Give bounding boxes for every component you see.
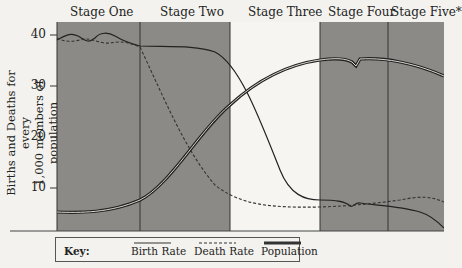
legend-death-rate: Death Rate [194,245,254,257]
stage-four-five-shading [320,22,444,231]
legend-population: Population [261,245,318,257]
legend-birth-rate: Birth Rate [131,245,186,257]
legend: Key: Birth Rate Death Rate Population [55,237,300,262]
stage-three-shading [230,22,320,231]
